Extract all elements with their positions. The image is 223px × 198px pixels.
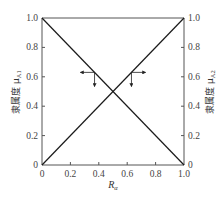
- y-left-tick-label: 0.6: [26, 72, 38, 82]
- y-left-tick-label: 0: [33, 160, 38, 170]
- svg-text:隶属度 μA2: 隶属度 μA2: [204, 70, 216, 114]
- y-right-axis-title-sub: A2: [209, 70, 216, 78]
- y-right-tick-label: 1.0: [188, 13, 200, 23]
- y-right-tick-label: 0.6: [188, 72, 200, 82]
- x-tick-label: 0.6: [121, 169, 133, 179]
- y-left-tick-label: 0.4: [26, 101, 38, 111]
- y-left-axis-title-sub: A1: [15, 70, 22, 78]
- y-left-tick-label: 0.8: [26, 42, 38, 52]
- y-right-tick-labels: 0 0.2 0.4 0.6 0.8 1.0: [188, 13, 200, 170]
- series-group: [42, 18, 184, 165]
- x-tick-label: 1.0: [178, 169, 190, 179]
- svg-text:Rα: Rα: [107, 179, 118, 191]
- x-tick-label: 0.2: [64, 169, 76, 179]
- x-tick-label: 0.4: [93, 169, 105, 179]
- y-left-axis-title-main: 隶属度 μ: [10, 78, 21, 114]
- x-axis-title-main: R: [107, 179, 114, 190]
- annotations: [81, 72, 146, 86]
- y-right-tick-label: 0.4: [188, 101, 200, 111]
- y-left-tick-label: 1.0: [26, 13, 38, 23]
- x-tick-label: 0: [40, 169, 45, 179]
- y-right-tick-label: 0.8: [188, 42, 200, 52]
- x-tick-label: 0.8: [150, 169, 162, 179]
- x-axis-title-sub: α: [114, 184, 118, 191]
- y-right-axis-title-main: 隶属度 μ: [204, 78, 215, 114]
- x-tick-labels: 0 0.2 0.4 0.6 0.8 1.0: [40, 169, 191, 179]
- y-right-axis-title: 隶属度 μA2: [204, 70, 216, 114]
- y-left-tick-label: 0.2: [26, 131, 38, 141]
- y-right-tick-label: 0: [188, 160, 193, 170]
- axis-ticks: [42, 47, 184, 165]
- membership-chart: 0 0.2 0.4 0.6 0.8 1.0 0 0.2 0.4 0.6 0.8 …: [0, 0, 223, 198]
- svg-text:隶属度 μA1: 隶属度 μA1: [10, 70, 22, 114]
- y-left-axis-title: 隶属度 μA1: [10, 70, 22, 114]
- y-left-tick-labels: 0 0.2 0.4 0.6 0.8 1.0: [26, 13, 38, 170]
- x-axis-title: Rα: [107, 179, 118, 191]
- y-right-tick-label: 0.2: [188, 131, 200, 141]
